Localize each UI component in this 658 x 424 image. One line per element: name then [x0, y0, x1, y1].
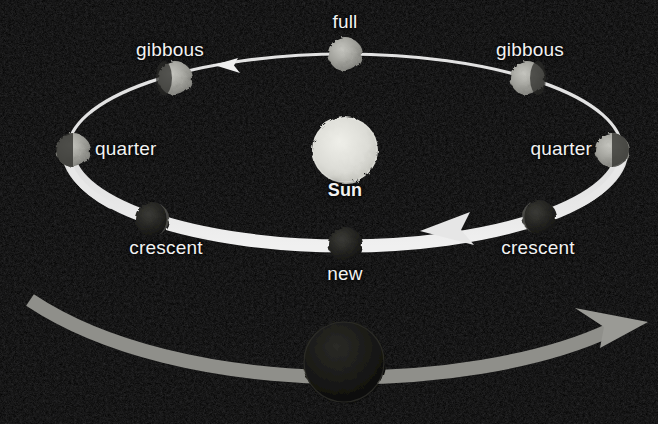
- label-new: new: [327, 264, 362, 283]
- moon-quarter-right: [595, 133, 629, 167]
- label-crescent-left: crescent: [129, 238, 202, 257]
- moon-gibbous-right: [510, 61, 546, 95]
- orbit-arrow-upper-left-icon: [214, 58, 240, 73]
- moon-quarter-left: [56, 133, 90, 167]
- label-gibbous-right: gibbous: [496, 40, 564, 59]
- sun-body: [312, 117, 378, 183]
- label-quarter-left: quarter: [95, 139, 157, 158]
- moon-phases-diagram: full gibbous gibbous quarter quarter cre…: [0, 0, 658, 424]
- label-crescent-right: crescent: [501, 238, 574, 257]
- moon-crescent-right: [522, 200, 556, 234]
- label-sun: Sun: [328, 181, 363, 199]
- diagram-svg: [0, 0, 658, 424]
- moon-crescent-left: [135, 202, 169, 236]
- label-gibbous-left: gibbous: [136, 40, 204, 59]
- label-full: full: [332, 12, 357, 31]
- moon-full: [328, 37, 362, 71]
- moon-new: [328, 227, 362, 261]
- moon-bottom-large: [303, 321, 385, 403]
- label-quarter-right: quarter: [530, 139, 592, 158]
- moon-gibbous-left: [156, 61, 192, 95]
